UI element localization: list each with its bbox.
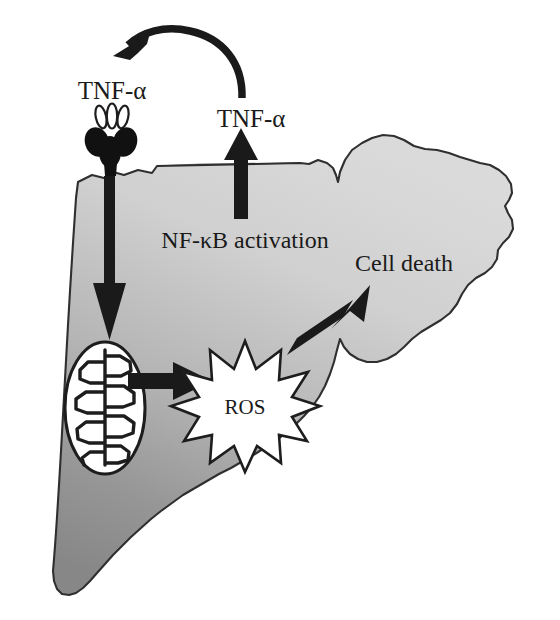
arrow-shaft-right bbox=[128, 373, 180, 389]
arrow-head-up bbox=[224, 128, 258, 160]
arrow-shaft-down bbox=[104, 176, 115, 286]
mitochondrion bbox=[65, 342, 145, 474]
feedback-curve-head bbox=[113, 33, 150, 60]
tnf-receptor-cluster bbox=[81, 124, 141, 176]
ros-label: ROS bbox=[225, 395, 266, 419]
cell-death-label: Cell death bbox=[355, 250, 453, 276]
tnf-ligand-trimer bbox=[94, 104, 131, 130]
signalling-diagram: ROS TNF-α TNF-α NF-κB activation Cell de… bbox=[0, 0, 560, 620]
tnf-ligand-oval-right bbox=[116, 105, 131, 130]
nfkb-activation-label: NF-κB activation bbox=[161, 227, 328, 253]
arrow-shaft-up bbox=[234, 151, 248, 219]
tnf-ligand-oval-center bbox=[107, 104, 117, 129]
figure-root: ROS TNF-α TNF-α NF-κB activation Cell de… bbox=[0, 0, 560, 620]
receptor-stem bbox=[104, 163, 117, 176]
tnf-extracellular-label: TNF-α bbox=[78, 77, 147, 104]
tnf-secreted-label: TNF-α bbox=[217, 105, 286, 132]
